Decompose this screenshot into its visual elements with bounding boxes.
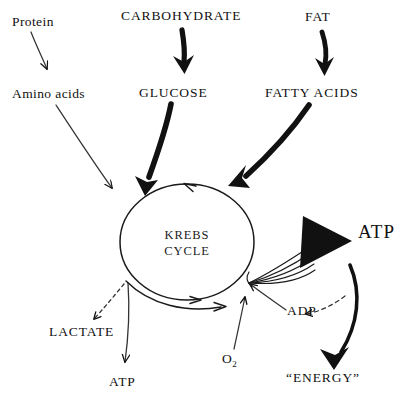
edge-fatty-acids-to-krebs [228, 105, 309, 188]
label-fatty-acids: FATTY ACIDS [265, 86, 359, 100]
edge-oxygen-to-krebs [234, 297, 245, 349]
edge-fat-to-fatty-acids [315, 32, 334, 76]
label-amino-acids: Amino acids [12, 87, 85, 101]
label-oxygen: O2 [222, 352, 237, 369]
edge-krebs-to-lactate [94, 284, 124, 319]
label-fat: FAT [305, 10, 331, 24]
label-lactate: LACTATE [49, 325, 114, 339]
edge-carbohydrate-to-glucose [173, 30, 194, 74]
edge-atp-to-energy [320, 265, 357, 370]
diagram-vectors [0, 0, 406, 403]
edge-krebs-to-atp-bottom [125, 283, 129, 362]
label-carbohydrate: CARBOHYDRATE [121, 9, 241, 23]
label-glucose: GLUCOSE [139, 86, 208, 100]
edge-amino-acids-to-krebs [56, 105, 112, 188]
edge-glucose-to-krebs [135, 104, 171, 196]
label-adp: ADP [287, 304, 317, 318]
label-atp-bottom: ATP [109, 375, 136, 389]
diagram-canvas: Protein Amino acids CARBOHYDRATE GLUCOSE… [0, 0, 406, 403]
edge-protein-to-amino-acids [31, 32, 47, 69]
krebs-line-1: KREBS [147, 228, 227, 244]
label-energy: “ENERGY” [286, 371, 360, 385]
edge-adp-to-krebs [250, 284, 286, 310]
krebs-line-2: CYCLE [147, 244, 227, 260]
label-krebs-cycle: KREBS CYCLE [147, 228, 227, 259]
label-atp-right: ATP [358, 222, 395, 242]
oxygen-symbol: O [222, 351, 232, 366]
oxygen-subscript: 2 [232, 359, 237, 369]
label-protein: Protein [12, 15, 54, 29]
atp-arrowhead [300, 216, 352, 268]
